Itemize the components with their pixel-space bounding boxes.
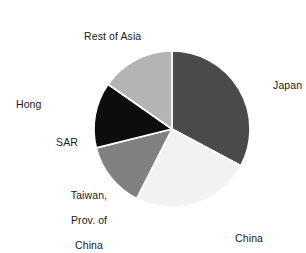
pie-label-taiwan-line1: Taiwan, [71, 189, 107, 201]
pie-label-china: China [223, 219, 263, 253]
pie-label-taiwan: Taiwan, Prov. of China [52, 176, 114, 253]
pie-label-hong-kong-line2: SAR [16, 136, 78, 149]
pie-label-china-text: China [235, 232, 263, 244]
pie-label-japan-text: Japan [273, 79, 302, 91]
pie-label-rest-of-asia: Rest of Asia [72, 17, 141, 55]
pie-label-taiwan-line2: Prov. of [71, 214, 107, 226]
pie-label-taiwan-line3: China [75, 239, 103, 251]
pie-label-hong-kong-line1: Hong [16, 98, 78, 111]
pie-label-rest-of-asia-text: Rest of Asia [84, 30, 141, 42]
pie-label-hong-kong-sar: Hong SAR [16, 73, 78, 173]
pie-label-japan: Japan [261, 66, 302, 104]
pie-slice-group [94, 51, 250, 207]
